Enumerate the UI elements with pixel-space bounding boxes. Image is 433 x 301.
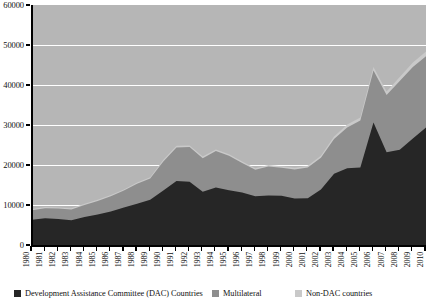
x-axis-tick-label: 1980 (23, 252, 31, 267)
x-axis-tick-label: 1982 (49, 252, 57, 267)
x-axis-tick (175, 246, 176, 251)
legend-label: Development Assistance Committee (DAC) C… (25, 289, 203, 298)
x-axis-tick (359, 246, 360, 251)
x-axis-tick-label: 2001 (299, 252, 307, 267)
x-axis-tick-label: 2003 (325, 252, 333, 267)
legend-label: Multilateral (223, 289, 262, 298)
legend-item[interactable]: Multilateral (212, 289, 262, 298)
x-axis-tick (201, 246, 202, 251)
x-axis-tick (83, 246, 84, 251)
x-axis-tick (346, 246, 347, 251)
plot-area (32, 5, 426, 245)
x-axis-tick (280, 246, 281, 251)
x-axis-tick-label: 2008 (391, 252, 399, 267)
y-axis-tick-label: 60000 (3, 1, 24, 10)
x-axis-tick (149, 246, 150, 251)
x-axis-tick-label: 1985 (89, 252, 97, 267)
x-axis-tick-label: 2002 (312, 252, 320, 267)
x-axis-tick-label: 2006 (364, 252, 372, 267)
x-axis-tick-label: 1997 (246, 252, 254, 267)
x-axis-tick (57, 246, 58, 251)
y-axis-labels: 0100002000030000400005000060000 (0, 0, 30, 250)
x-axis-tick-label: 2009 (404, 252, 412, 267)
legend-swatch-icon (212, 290, 219, 297)
x-axis-tick-label: 2000 (286, 252, 294, 267)
y-axis-tick-label: 20000 (3, 161, 24, 170)
x-axis-tick-label: 1996 (233, 252, 241, 267)
y-axis-tick (26, 84, 30, 85)
x-axis-tick-label: 2010 (417, 252, 425, 267)
x-axis-tick (319, 246, 320, 251)
x-axis-tick (306, 246, 307, 251)
x-axis-tick-label: 1981 (36, 252, 44, 267)
y-axis-tick-label: 10000 (3, 201, 24, 210)
x-axis-tick (254, 246, 255, 251)
x-axis-tick (293, 246, 294, 251)
x-axis-tick-label: 1990 (154, 252, 162, 267)
x-axis-tick (398, 246, 399, 251)
x-axis-tick-label: 1988 (128, 252, 136, 267)
y-axis-tick-label: 0 (20, 241, 24, 250)
x-axis-tick (30, 246, 31, 251)
x-axis-tick-label: 1998 (259, 252, 267, 267)
x-axis-tick (44, 246, 45, 251)
x-axis-tick-label: 2004 (338, 252, 346, 267)
y-axis-tick (26, 124, 30, 125)
chart-legend: Development Assistance Committee (DAC) C… (0, 286, 433, 300)
legend-item[interactable]: Development Assistance Committee (DAC) C… (14, 289, 203, 298)
x-axis-tick-label: 1994 (207, 252, 215, 267)
x-axis-tick-label: 1983 (62, 252, 70, 267)
x-axis-ticks (31, 246, 426, 251)
x-axis-tick (385, 246, 386, 251)
x-axis-tick (332, 246, 333, 251)
x-axis-tick (162, 246, 163, 251)
x-axis-tick-label: 1999 (273, 252, 281, 267)
x-axis-tick-label: 1986 (102, 252, 110, 267)
x-axis-tick-label: 1995 (220, 252, 228, 267)
stacked-area-chart: 0100002000030000400005000060000 19801981… (0, 0, 433, 301)
legend-swatch-icon (14, 290, 21, 297)
y-axis-tick-label: 30000 (3, 121, 24, 130)
x-axis-tick (214, 246, 215, 251)
x-axis-tick-label: 1989 (141, 252, 149, 267)
x-axis-tick (267, 246, 268, 251)
y-axis-tick (26, 204, 30, 205)
y-axis-tick-label: 40000 (3, 81, 24, 90)
x-axis-tick (227, 246, 228, 251)
y-axis-line (31, 5, 33, 246)
legend-label: Non-DAC countries (306, 289, 372, 298)
x-axis-tick (424, 246, 425, 251)
x-axis-tick (188, 246, 189, 251)
x-axis-tick-label: 2005 (351, 252, 359, 267)
area-series-group (32, 5, 426, 245)
x-axis-tick (241, 246, 242, 251)
x-axis-tick (135, 246, 136, 251)
legend-item[interactable]: Non-DAC countries (295, 289, 372, 298)
y-axis-tick (26, 164, 30, 165)
y-axis-tick (26, 244, 30, 245)
x-axis-tick-label: 1993 (194, 252, 202, 267)
x-axis-tick-label: 1991 (167, 252, 175, 267)
legend-swatch-icon (295, 290, 302, 297)
x-axis-tick-label: 2007 (378, 252, 386, 267)
x-axis-tick (411, 246, 412, 251)
x-axis-tick (96, 246, 97, 251)
y-axis-tick (26, 4, 30, 5)
x-axis-tick (372, 246, 373, 251)
x-axis-labels: 1980198119821983198419851986198719881989… (31, 252, 426, 282)
x-axis-tick-label: 1984 (76, 252, 84, 267)
x-axis-tick (109, 246, 110, 251)
x-axis-tick (70, 246, 71, 251)
x-axis-tick-label: 1987 (115, 252, 123, 267)
x-axis-tick-label: 1992 (181, 252, 189, 267)
y-axis-tick-label: 50000 (3, 41, 24, 50)
y-axis-tick (26, 44, 30, 45)
x-axis-tick (122, 246, 123, 251)
